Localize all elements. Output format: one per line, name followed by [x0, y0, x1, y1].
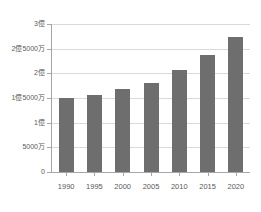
bar-chart: 05000万1億1億5000万2億2億5000万3億 1990199520002… — [0, 0, 261, 212]
x-tick-label: 1995 — [79, 182, 109, 191]
y-tick-label: 0 — [41, 168, 45, 176]
y-tick-label: 3億 — [34, 20, 45, 28]
x-tick-mark — [208, 172, 209, 176]
plot-area — [52, 24, 250, 172]
x-tick-label: 2000 — [108, 182, 138, 191]
y-tick-label: 2億5000万 — [12, 45, 45, 53]
x-tick-mark — [123, 172, 124, 176]
x-tick-label: 2015 — [193, 182, 223, 191]
y-tick-label: 5000万 — [22, 143, 45, 151]
x-tick-label: 2005 — [136, 182, 166, 191]
bar — [228, 37, 243, 172]
x-tick-mark — [179, 172, 180, 176]
x-tick-mark — [66, 172, 67, 176]
bar — [59, 98, 74, 172]
bar — [200, 55, 215, 172]
x-tick-label: 2020 — [221, 182, 251, 191]
x-tick-label: 1990 — [51, 182, 81, 191]
x-tick-mark — [94, 172, 95, 176]
x-tick-mark — [151, 172, 152, 176]
y-tick-label: 1億5000万 — [12, 94, 45, 102]
x-tick-label: 2010 — [164, 182, 194, 191]
bar — [87, 95, 102, 172]
bar — [115, 89, 130, 172]
y-tick-label: 1億 — [34, 119, 45, 127]
x-tick-mark — [236, 172, 237, 176]
bar — [144, 83, 159, 172]
y-tick-label: 2億 — [34, 69, 45, 77]
bar — [172, 70, 187, 172]
